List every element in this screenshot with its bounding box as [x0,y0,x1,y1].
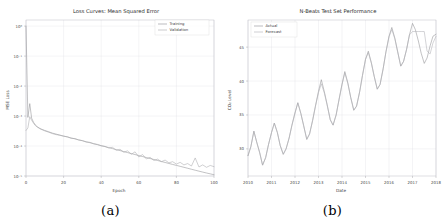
svg-text:0: 0 [25,180,28,185]
svg-text:2010: 2010 [243,180,253,185]
svg-text:10⁻⁵: 10⁻⁵ [13,174,22,179]
svg-text:2013: 2013 [314,180,324,185]
svg-text:Forecast: Forecast [266,29,283,34]
svg-text:30: 30 [239,146,244,151]
y-axis-label-b: CO₂ Level [227,90,232,110]
svg-text:10⁻¹: 10⁻¹ [13,54,22,59]
svg-text:Validation: Validation [170,27,189,32]
svg-text:2014: 2014 [337,180,347,185]
loss-curves-chart: Loss Curves: Mean Squared Error 02040608… [0,0,221,200]
svg-text:40: 40 [239,79,244,84]
legend-b: ActualForecast [251,22,297,37]
svg-text:80: 80 [174,180,179,185]
figure-container: Loss Curves: Mean Squared Error 02040608… [0,0,443,222]
panel-caption-a: (a) [0,203,221,218]
panel-a: Loss Curves: Mean Squared Error 02040608… [0,0,221,222]
y-axis-label-a: MSE Loss [5,90,10,109]
svg-text:60: 60 [136,180,141,185]
svg-text:Training: Training [169,21,186,26]
axes-a [24,20,214,178]
svg-text:100: 100 [210,180,218,185]
series-a [26,26,214,175]
svg-text:10⁻³: 10⁻³ [13,114,22,119]
x-axis-label-b: Date [336,188,346,193]
svg-text:2015: 2015 [361,180,371,185]
svg-text:Actual: Actual [266,23,278,28]
svg-text:10⁻²: 10⁻² [13,84,22,89]
tick-labels-a: 02040608010010⁻⁵10⁻⁴10⁻³10⁻²10⁻¹10⁰ [13,24,218,185]
chart-title-b: N-Beats Test Set Performance [300,8,377,14]
legend-a: TrainingValidation [155,20,209,35]
x-axis-label-a: Epoch [113,188,126,193]
panel-caption-b: (b) [222,203,443,218]
gridlines-a [26,20,214,176]
svg-text:40: 40 [99,180,104,185]
svg-text:10⁻⁴: 10⁻⁴ [13,144,22,149]
nbeats-performance-chart: N-Beats Test Set Performance 20102011201… [222,0,443,200]
svg-text:45: 45 [239,45,244,50]
svg-text:2018: 2018 [431,180,441,185]
svg-text:2017: 2017 [408,180,418,185]
svg-text:20: 20 [61,180,66,185]
chart-title-a: Loss Curves: Mean Squared Error [73,8,160,15]
svg-text:10⁰: 10⁰ [15,24,22,29]
panel-b: N-Beats Test Set Performance 20102011201… [222,0,443,222]
svg-text:2012: 2012 [290,180,300,185]
svg-text:35: 35 [239,112,244,117]
svg-text:2016: 2016 [384,180,394,185]
svg-text:2011: 2011 [267,180,277,185]
